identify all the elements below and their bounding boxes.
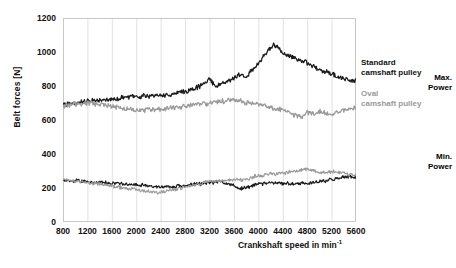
y-tick-400: 400: [22, 149, 56, 159]
legend-oval-line1: Oval: [361, 89, 421, 99]
x-axis-title-base: Crankshaft speed in min: [238, 240, 337, 250]
legend-min-power: Min. Power: [384, 152, 452, 171]
legend-min-line2: Power: [384, 162, 452, 172]
y-tick-800: 800: [22, 81, 56, 91]
x-axis-title-exponent: -1: [337, 239, 342, 245]
legend-oval-line2: camshaft pulley: [361, 99, 421, 109]
series-line-0: [63, 43, 356, 107]
y-tick-1000: 1000: [22, 47, 56, 57]
legend-min-line1: Min.: [384, 152, 452, 162]
legend-standard-line1: Standard: [361, 58, 421, 68]
y-axis-title: Belt forces [N]: [12, 42, 22, 152]
series-line-3: [63, 168, 356, 194]
plot-area: [63, 18, 356, 222]
series-line-2: [63, 175, 356, 190]
x-tick-5600: 5600: [336, 226, 376, 236]
legend-oval-camshaft-pulley: Oval camshaft pulley: [361, 89, 421, 108]
y-tick-600: 600: [22, 115, 56, 125]
y-tick-200: 200: [22, 183, 56, 193]
x-axis-title: Crankshaft speed in min-1: [180, 239, 400, 250]
legend-max-line1: Max.: [384, 73, 452, 83]
chart-figure: Belt forces [N] Crankshaft speed in min-…: [0, 0, 456, 268]
series-line-1: [63, 98, 356, 118]
plot-frame: [64, 19, 356, 222]
y-tick-1200: 1200: [22, 13, 56, 23]
